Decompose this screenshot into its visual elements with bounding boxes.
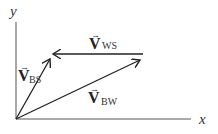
vector-bw-arrow: [16, 60, 140, 119]
svg-text:BS: BS: [29, 74, 41, 85]
y-axis-label: y: [8, 3, 17, 19]
vector-bw-label: → V BW: [88, 84, 118, 107]
svg-text:BW: BW: [101, 96, 118, 107]
vector-bs-label: → V BS: [18, 62, 41, 85]
vector-ws-label: → V WS: [89, 30, 117, 52]
vector-diagram: y x → V BS → V WS → V BW: [0, 0, 218, 134]
x-axis-label: x: [198, 111, 206, 127]
svg-text:V: V: [88, 89, 100, 106]
svg-text:WS: WS: [102, 40, 117, 51]
svg-text:V: V: [89, 35, 101, 52]
